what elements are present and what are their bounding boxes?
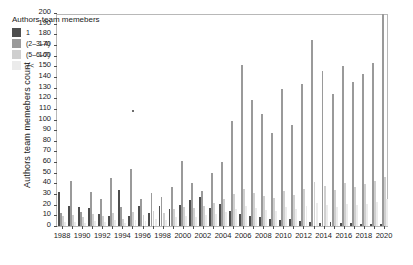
bar	[366, 204, 368, 226]
bar	[326, 205, 328, 226]
y-tick-label: 90	[43, 124, 51, 133]
x-tick-mark	[314, 226, 315, 229]
x-tick-mark	[384, 226, 385, 229]
legend-item: (2–3–4)	[12, 39, 100, 48]
legend-swatch	[12, 61, 21, 70]
x-tick-mark	[112, 226, 113, 229]
y-tick-label: 80	[43, 135, 51, 144]
x-tick-label: 2008	[255, 231, 272, 240]
bar-series-container	[57, 15, 387, 226]
x-tick-label: 2000	[174, 231, 191, 240]
bar	[265, 210, 267, 226]
legend-item-label: 7<	[26, 62, 34, 69]
x-tick-label: 2004	[215, 231, 232, 240]
x-tick-mark	[243, 226, 244, 229]
y-tick-mark	[54, 226, 57, 227]
x-tick-mark	[72, 226, 73, 229]
x-tick-mark	[163, 226, 164, 229]
x-tick-mark	[132, 226, 133, 229]
x-tick-mark	[283, 226, 284, 229]
x-tick-mark	[263, 226, 264, 229]
bar	[74, 222, 76, 226]
legend-swatch	[12, 28, 21, 37]
bar	[386, 199, 388, 226]
bar	[245, 206, 247, 226]
x-tick-mark	[293, 226, 294, 229]
legend-item: 7<	[12, 61, 100, 70]
bar	[195, 217, 197, 226]
legend-item: (5–6–7)	[12, 50, 100, 59]
x-tick-label: 2016	[335, 231, 352, 240]
legend-item-label: (5–6–7)	[26, 51, 50, 58]
bar	[306, 206, 308, 226]
bar	[94, 221, 96, 226]
x-tick-mark	[273, 226, 274, 229]
bar	[145, 221, 147, 226]
bar	[295, 209, 297, 226]
x-tick-mark	[344, 226, 345, 229]
bar	[275, 211, 277, 226]
legend-title: Authors team memebers	[12, 15, 100, 24]
bar	[255, 208, 257, 226]
bar	[124, 223, 126, 226]
x-tick-mark	[334, 226, 335, 229]
bar	[336, 207, 338, 226]
plot-area: 0102030405060708090100110120130140150160…	[56, 14, 388, 227]
y-tick-mark	[54, 13, 57, 14]
x-tick-label: 2006	[235, 231, 252, 240]
x-tick-label: 1996	[134, 231, 151, 240]
x-tick-mark	[253, 226, 254, 229]
x-tick-label: 1998	[154, 231, 171, 240]
x-tick-mark	[223, 226, 224, 229]
bar	[135, 220, 137, 226]
legend-item-label: 1	[26, 29, 30, 36]
legend-swatch	[12, 39, 21, 48]
y-tick-label: 140	[38, 71, 51, 80]
x-tick-mark	[173, 226, 174, 229]
bar	[215, 214, 217, 226]
x-tick-label: 2010	[275, 231, 292, 240]
legend-swatch	[12, 50, 21, 59]
x-tick-label: 2018	[356, 231, 373, 240]
bar	[235, 209, 237, 226]
y-tick-label: 20	[43, 199, 51, 208]
bar	[175, 217, 177, 226]
bar	[165, 220, 167, 226]
bar	[114, 220, 116, 226]
x-tick-label: 1994	[114, 231, 131, 240]
y-tick-label: 120	[38, 92, 51, 101]
x-tick-label: 2020	[376, 231, 393, 240]
x-tick-label: 1990	[74, 231, 91, 240]
x-tick-mark	[143, 226, 144, 229]
legend: Authors team memebers 1(2–3–4)(5–6–7)7<	[12, 15, 100, 72]
x-tick-mark	[354, 226, 355, 229]
y-tick-label: 130	[38, 82, 51, 91]
x-tick-mark	[183, 226, 184, 229]
y-tick-label: 100	[38, 114, 51, 123]
stray-marker	[132, 110, 134, 112]
bar	[155, 219, 157, 226]
legend-items: 1(2–3–4)(5–6–7)7<	[12, 28, 100, 70]
x-tick-label: 1988	[54, 231, 71, 240]
bar	[225, 212, 227, 226]
legend-item: 1	[12, 28, 100, 37]
bar	[346, 204, 348, 226]
x-tick-mark	[213, 226, 214, 229]
x-tick-label: 2012	[295, 231, 312, 240]
bar	[316, 203, 318, 226]
y-tick-label: 10	[43, 209, 51, 218]
legend-item-label: (2–3–4)	[26, 40, 50, 47]
x-tick-mark	[102, 226, 103, 229]
bar	[356, 205, 358, 226]
x-tick-mark	[62, 226, 63, 229]
x-tick-mark	[153, 226, 154, 229]
bar	[376, 202, 378, 226]
y-tick-label: 40	[43, 177, 51, 186]
y-tick-label: 50	[43, 167, 51, 176]
y-tick-label: 70	[43, 145, 51, 154]
x-tick-mark	[324, 226, 325, 229]
bar	[64, 222, 66, 226]
x-tick-mark	[92, 226, 93, 229]
y-tick-label: 30	[43, 188, 51, 197]
bar	[84, 223, 86, 226]
